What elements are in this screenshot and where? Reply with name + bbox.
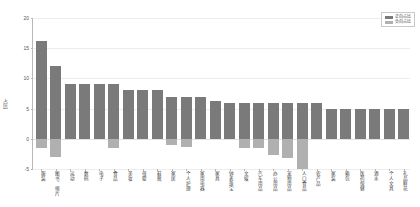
- bar-positive[interactable]: [94, 84, 105, 138]
- x-tick-label: 钟表珠宝: [227, 171, 232, 191]
- bar-group[interactable]: [339, 18, 354, 168]
- y-tick-label: 0: [26, 136, 33, 141]
- bar-group[interactable]: [266, 18, 281, 168]
- bar-positive[interactable]: [239, 103, 250, 139]
- bar-positive[interactable]: [355, 109, 366, 139]
- y-tick-label: 10: [23, 76, 33, 81]
- bar-group[interactable]: [165, 18, 180, 168]
- chart-legend[interactable]: 正向占比负向占比: [381, 12, 415, 27]
- legend-swatch: [385, 21, 393, 24]
- x-tick-label: 农产品: [314, 171, 319, 186]
- bar-positive[interactable]: [195, 97, 206, 139]
- y-tick-label: 15: [23, 46, 33, 51]
- bar-negative[interactable]: [253, 139, 264, 149]
- bar-group[interactable]: [208, 18, 223, 168]
- bar-positive[interactable]: [65, 84, 76, 138]
- plot-area: -505101520: [32, 18, 410, 170]
- x-tick-label: 家具: [213, 171, 218, 181]
- bar-negative[interactable]: [297, 139, 308, 169]
- bar-group[interactable]: [252, 18, 267, 168]
- bar-negative[interactable]: [108, 139, 119, 149]
- bar-group[interactable]: [368, 18, 383, 168]
- y-tick-label: 20: [23, 16, 33, 21]
- bar-group[interactable]: [295, 18, 310, 168]
- bar-positive[interactable]: [268, 103, 279, 139]
- bar-negative[interactable]: [36, 139, 47, 148]
- bar-positive[interactable]: [297, 103, 308, 139]
- legend-label: 负向占比: [395, 20, 411, 24]
- bar-positive[interactable]: [152, 90, 163, 139]
- x-tick-label: 图书、唱片: [53, 171, 58, 196]
- bar-negative[interactable]: [239, 139, 250, 149]
- bar-positive[interactable]: [340, 109, 351, 139]
- bar-group[interactable]: [397, 18, 412, 168]
- x-tick-label: 礼品鲜花: [401, 171, 406, 191]
- y-tick-label: -5: [25, 167, 33, 172]
- x-tick-label: 宠物用品: [285, 171, 290, 191]
- bar-series-group: [34, 18, 410, 168]
- bar-positive[interactable]: [398, 109, 409, 139]
- bar-group[interactable]: [92, 18, 107, 168]
- bar-positive[interactable]: [137, 90, 148, 138]
- bar-group[interactable]: [63, 18, 78, 168]
- bar-positive[interactable]: [123, 90, 134, 138]
- bar-negative[interactable]: [50, 139, 61, 157]
- bar-group[interactable]: [136, 18, 151, 168]
- bar-positive[interactable]: [166, 97, 177, 139]
- legend-swatch: [385, 16, 393, 19]
- x-tick-label: 箱包: [343, 171, 348, 181]
- bar-negative[interactable]: [282, 139, 293, 158]
- bar-negative[interactable]: [181, 139, 192, 147]
- x-tick-label: 个人护理: [184, 171, 189, 191]
- bar-positive[interactable]: [311, 103, 322, 139]
- x-tick-label: 汽车用品: [256, 171, 261, 191]
- x-tick-label: 食品: [111, 171, 116, 181]
- bar-positive[interactable]: [108, 84, 119, 139]
- bar-group[interactable]: [194, 18, 209, 168]
- bar-group[interactable]: [382, 18, 397, 168]
- x-tick-label: 个人文具: [387, 171, 392, 191]
- bar-group[interactable]: [281, 18, 296, 168]
- bar-group[interactable]: [150, 18, 165, 168]
- bar-group[interactable]: [324, 18, 339, 168]
- bar-positive[interactable]: [181, 97, 192, 139]
- bar-positive[interactable]: [384, 109, 395, 139]
- bar-group[interactable]: [179, 18, 194, 168]
- bar-chart-figure: 占比 -505101520 服装图书、唱片运动数码电子食品美妆母婴鞋靴家居个人护…: [0, 0, 420, 207]
- bar-group[interactable]: [237, 18, 252, 168]
- x-tick-label: 鞋靴: [155, 171, 160, 181]
- bar-positive[interactable]: [282, 103, 293, 139]
- x-tick-label: 电子: [97, 171, 102, 181]
- x-tick-label: 服装: [39, 171, 44, 181]
- x-tick-label: 家装: [329, 171, 334, 181]
- y-tick-label: 5: [26, 106, 33, 111]
- bar-group[interactable]: [121, 18, 136, 168]
- bar-positive[interactable]: [253, 103, 264, 139]
- x-tick-label: 人口食品: [300, 171, 305, 191]
- x-tick-label: 家用电器: [198, 171, 203, 191]
- bar-positive[interactable]: [210, 101, 221, 138]
- bar-group[interactable]: [78, 18, 93, 168]
- bar-group[interactable]: [310, 18, 325, 168]
- bar-positive[interactable]: [79, 84, 90, 138]
- x-tick-label: 数码: [82, 171, 87, 181]
- bar-negative[interactable]: [166, 139, 177, 145]
- legend-item[interactable]: 负向占比: [385, 20, 411, 24]
- x-tick-label: 酒水: [372, 171, 377, 181]
- bar-positive[interactable]: [326, 109, 337, 139]
- x-tick-label: 文娱: [242, 171, 247, 181]
- x-tick-label: 办公用品: [271, 171, 276, 191]
- bar-positive[interactable]: [36, 41, 47, 139]
- bar-group[interactable]: [49, 18, 64, 168]
- bar-positive[interactable]: [50, 66, 61, 138]
- gridline: [33, 169, 410, 170]
- x-tick-label: 家居: [169, 171, 174, 181]
- bar-group[interactable]: [34, 18, 49, 168]
- bar-positive[interactable]: [224, 103, 235, 139]
- bar-group[interactable]: [107, 18, 122, 168]
- bar-positive[interactable]: [369, 109, 380, 139]
- bar-group[interactable]: [353, 18, 368, 168]
- bar-negative[interactable]: [268, 139, 279, 155]
- bar-group[interactable]: [223, 18, 238, 168]
- x-tick-label: 医药保健: [358, 171, 363, 191]
